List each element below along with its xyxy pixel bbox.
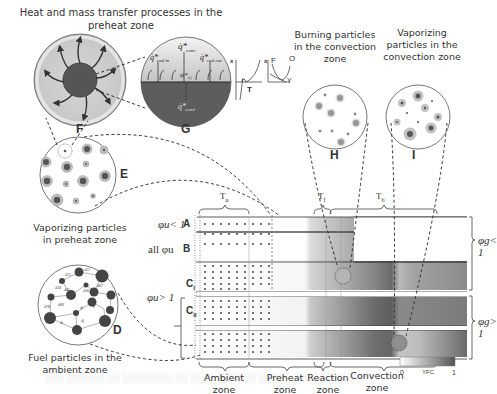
row-cii-label: CII xyxy=(186,305,197,318)
zone-bars xyxy=(195,215,467,360)
colorbar-min: 0 xyxy=(400,369,404,376)
zone-preheat: Preheat zone xyxy=(262,372,308,394)
panel-e xyxy=(40,137,116,213)
svg-text:d56: d56 xyxy=(83,288,89,293)
panel-i xyxy=(386,85,450,149)
row-b-bar xyxy=(197,260,467,290)
panel-h xyxy=(303,85,367,149)
profile-plots xyxy=(236,60,290,100)
colorbar xyxy=(400,357,455,366)
colorbar-label: YFC xyxy=(422,369,434,376)
c-group-condition: φu> 1 xyxy=(147,291,174,303)
caption-i: Vaporizing particles in the convection z… xyxy=(380,27,464,63)
svg-text:x: x xyxy=(230,58,234,64)
svg-text:conv: conv xyxy=(186,48,196,53)
svg-text:d89: d89 xyxy=(58,302,64,307)
plot-o-label: O xyxy=(289,54,295,63)
zone-convection: Convection zone xyxy=(347,370,407,394)
label-d: D xyxy=(113,323,122,337)
svg-text:cond: cond xyxy=(185,107,195,112)
svg-text:di: di xyxy=(60,320,63,325)
colorbar-max: 1 xyxy=(452,369,456,376)
magnifier-vaporizing-spot xyxy=(391,335,407,351)
plot-f-label: F xyxy=(271,56,276,65)
title-heat-mass-transfer: Heat and mass transfer processes in the … xyxy=(5,6,237,32)
svg-text:d23: d23 xyxy=(84,267,90,272)
svg-text:d67: d67 xyxy=(97,283,104,288)
caption-h: Burning particles in the convection zone xyxy=(293,29,377,65)
svg-text:d45: d45 xyxy=(64,287,70,292)
label-tu: Tu xyxy=(220,191,229,203)
caption-e: Vaporizing particles in preheat zone xyxy=(30,222,130,246)
top-braces xyxy=(199,205,437,214)
svg-text:di: di xyxy=(80,305,83,310)
row-cii-bar xyxy=(197,329,467,357)
label-h: H xyxy=(330,148,339,162)
svg-text:d12: d12 xyxy=(65,272,71,277)
caption-d: Fuel particles in the ambient zone xyxy=(25,352,125,376)
right-braces xyxy=(469,217,475,359)
row-a-label: A xyxy=(183,218,190,229)
panel-g: q̇* rad in q̇* conv q̇* rad out ψ* v,i q… xyxy=(140,36,232,128)
zone-ambient: Ambient zone xyxy=(198,372,250,394)
plot-y-label: Y xyxy=(287,77,292,84)
colorbar-labels: 0 YFC 1 xyxy=(400,369,456,376)
label-g: G xyxy=(181,122,190,136)
svg-text:d34: d34 xyxy=(55,285,61,290)
label-tf: Tf xyxy=(318,191,326,203)
magnifier-burning-spot xyxy=(335,268,351,284)
label-f: F xyxy=(76,122,83,136)
svg-text:rad in: rad in xyxy=(157,58,170,63)
svg-text:x: x xyxy=(264,58,268,64)
plot-t-label: T xyxy=(247,85,252,94)
label-tb: Tb xyxy=(376,191,385,203)
svg-text:d78: d78 xyxy=(44,304,50,309)
row-ci-label: CI xyxy=(186,278,195,291)
zone-reaction: Reaction zone xyxy=(305,372,351,394)
row-b-condition: all φu xyxy=(148,243,174,255)
panel-f xyxy=(34,34,126,126)
c-group-bracket xyxy=(181,298,185,358)
phi-g-less-1: φg< 1 xyxy=(478,234,497,258)
row-a-condition: φu< 1 xyxy=(158,218,185,230)
phi-g-greater-1: φg> 1 xyxy=(478,315,497,339)
panel-d: d12d23d34 d45d56d67 d78d89di djdidj xyxy=(38,265,118,345)
row-b-label: B xyxy=(183,243,190,254)
label-e: E xyxy=(120,167,128,181)
svg-text:rad out: rad out xyxy=(207,58,222,63)
label-i: I xyxy=(412,148,415,162)
